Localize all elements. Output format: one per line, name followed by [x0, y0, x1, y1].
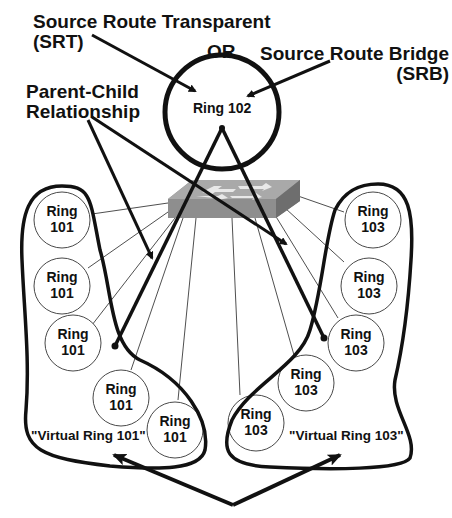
virtual-ring-103-label: "Virtual Ring 103" [289, 428, 404, 443]
ring-label-line1: Ring [46, 203, 77, 219]
ring-label-line2: 103 [357, 285, 380, 301]
ring-label-line2: 103 [361, 219, 384, 235]
ring-label-line1: Ring [57, 326, 88, 342]
ring-label-line1: Ring [340, 326, 371, 342]
ring-label-line2: 101 [50, 285, 73, 301]
ring-label-line2: 101 [50, 219, 73, 235]
right-ring-3: Ring103 [326, 327, 386, 358]
ring-label-line2: 103 [294, 382, 317, 398]
ring-label-line2: 103 [244, 422, 267, 438]
ring-label-line1: Ring [105, 381, 136, 397]
ring-label-line2: 103 [344, 342, 367, 358]
srb-label: Source Route Bridge (SRB) [260, 44, 449, 84]
virtual-ring-arrows [114, 455, 340, 505]
ring-label-line1: Ring [353, 269, 384, 285]
right-ring-2: Ring103 [339, 270, 399, 301]
or-label: OR [207, 42, 236, 62]
parent-child-lines [115, 128, 324, 346]
ring-label-line1: Ring [240, 406, 271, 422]
left-ring-4: Ring101 [91, 382, 151, 413]
ring-label-line2: 101 [61, 342, 84, 358]
ring-102-label: Ring 102 [193, 101, 251, 116]
left-ring-2: Ring101 [32, 270, 92, 301]
srt-label-line2: (SRT) [33, 31, 84, 52]
parent-child-label: Parent-Child Relationship [26, 82, 140, 122]
srt-label-line1: Source Route Transparent [33, 11, 271, 32]
ring-label-line1: Ring [159, 413, 190, 429]
dot-left [112, 343, 119, 350]
parent-child-line2: Relationship [26, 101, 140, 122]
srb-label-line1: Source Route Bridge [260, 43, 449, 64]
virtual-ring-101-label: "Virtual Ring 101" [31, 428, 146, 443]
ring-label-line1: Ring [46, 269, 77, 285]
dot-top [219, 125, 225, 131]
left-ring-1: Ring101 [32, 204, 92, 235]
right-ring-1: Ring103 [343, 204, 403, 235]
parent-child-line1: Parent-Child [26, 81, 139, 102]
ring-label-line1: Ring [357, 203, 388, 219]
left-ring-3: Ring101 [43, 327, 103, 358]
right-ring-5: Ring103 [226, 407, 286, 438]
right-ring-4: Ring103 [276, 367, 336, 398]
srb-label-line2: (SRB) [396, 63, 449, 84]
ring-label-line2: 101 [163, 429, 186, 445]
left-ring-5: Ring101 [145, 414, 205, 445]
ring-label-line1: Ring [290, 366, 321, 382]
ring-label-line2: 101 [109, 397, 132, 413]
